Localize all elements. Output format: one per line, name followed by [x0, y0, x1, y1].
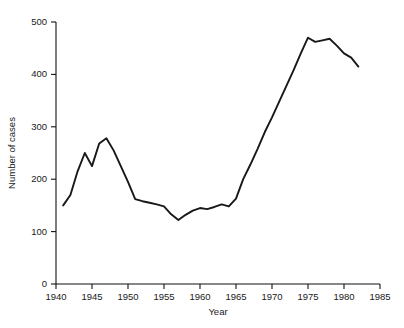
x-axis-tick-label: 1985 — [369, 291, 390, 302]
y-axis-tick-label: 100 — [31, 226, 47, 237]
x-axis-tick-label: 1980 — [333, 291, 354, 302]
x-axis-tick-label: 1975 — [297, 291, 318, 302]
x-axis-tick-label: 1960 — [189, 291, 210, 302]
x-axis-tick-label: 1945 — [81, 291, 102, 302]
x-axis-tick-label: 1970 — [261, 291, 282, 302]
data-series-line — [63, 38, 358, 220]
y-axis-tick-label: 500 — [31, 16, 47, 27]
y-axis-tick-label: 400 — [31, 68, 47, 79]
x-axis-tick-label: 1955 — [153, 291, 174, 302]
y-axis-tick-label: 0 — [42, 278, 47, 289]
y-axis-tick-label: 200 — [31, 173, 47, 184]
x-axis-tick-group: 1940194519501955196019651970197519801985 — [45, 284, 390, 302]
line-chart: 0100200300400500 19401945195019551960196… — [0, 0, 404, 328]
chart-canvas: 0100200300400500 19401945195019551960196… — [0, 0, 404, 328]
x-axis-tick-label: 1965 — [225, 291, 246, 302]
x-axis-title: Year — [208, 306, 227, 317]
x-axis-tick-label: 1950 — [117, 291, 138, 302]
x-axis-tick-label: 1940 — [45, 291, 66, 302]
y-axis-title: Number of cases — [6, 117, 17, 189]
y-axis-tick-label: 300 — [31, 121, 47, 132]
y-axis-tick-group: 0100200300400500 — [31, 16, 56, 289]
